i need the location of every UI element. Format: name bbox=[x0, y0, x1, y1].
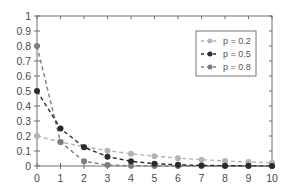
y-tick-label: 0.1 bbox=[16, 145, 31, 157]
data-point-marker bbox=[246, 163, 252, 169]
data-point-marker bbox=[58, 126, 64, 132]
chart: 00.10.20.30.40.50.60.70.80.91 0123456789… bbox=[0, 0, 289, 193]
legend-label: p = 0.5 bbox=[223, 49, 251, 59]
legend: p = 0.2p = 0.5p = 0.8 bbox=[196, 31, 256, 76]
x-tick-label: 10 bbox=[266, 172, 278, 184]
x-tick-label: 9 bbox=[246, 172, 252, 184]
legend-marker-icon bbox=[208, 65, 213, 70]
data-point-marker bbox=[199, 162, 205, 168]
y-tick-label: 0.9 bbox=[16, 25, 31, 37]
x-tick-label: 0 bbox=[34, 172, 40, 184]
data-point-marker bbox=[58, 139, 64, 145]
x-tick-label: 3 bbox=[105, 172, 111, 184]
data-point-marker bbox=[105, 162, 111, 168]
data-point-marker bbox=[34, 133, 40, 139]
x-tick-label: 7 bbox=[199, 172, 205, 184]
data-point-marker bbox=[152, 153, 158, 159]
data-point-marker bbox=[199, 157, 205, 163]
x-tick-label: 1 bbox=[58, 172, 64, 184]
data-point-marker bbox=[128, 158, 134, 164]
y-tick-label: 0.8 bbox=[16, 40, 31, 52]
y-tick-label: 0.6 bbox=[16, 70, 31, 82]
x-tick-label: 4 bbox=[128, 172, 134, 184]
data-point-marker bbox=[175, 162, 181, 168]
data-point-marker bbox=[105, 154, 111, 160]
x-tick-label: 8 bbox=[222, 172, 228, 184]
data-point-marker bbox=[34, 43, 40, 49]
data-point-marker bbox=[105, 148, 111, 154]
y-tick-label: 0.7 bbox=[16, 55, 31, 67]
x-tick-label: 6 bbox=[175, 172, 181, 184]
data-point-marker bbox=[222, 163, 228, 169]
x-tick-label: 5 bbox=[152, 172, 158, 184]
y-tick-label: 0.3 bbox=[16, 115, 31, 127]
y-tick-label: 1 bbox=[25, 10, 31, 22]
data-point-marker bbox=[152, 161, 158, 167]
data-point-marker bbox=[34, 88, 40, 94]
data-point-marker bbox=[81, 144, 87, 150]
data-point-marker bbox=[269, 163, 275, 169]
y-tick-label: 0.5 bbox=[16, 85, 31, 97]
y-tick-label: 0.4 bbox=[16, 100, 31, 112]
legend-marker-icon bbox=[208, 39, 213, 44]
legend-marker-icon bbox=[208, 52, 213, 57]
data-point-marker bbox=[81, 158, 87, 164]
y-tick-label: 0 bbox=[25, 160, 31, 172]
legend-label: p = 0.2 bbox=[223, 36, 251, 46]
data-point-marker bbox=[175, 155, 181, 161]
x-tick-label: 2 bbox=[81, 172, 87, 184]
legend-label: p = 0.8 bbox=[223, 62, 251, 72]
y-tick-label: 0.2 bbox=[16, 130, 31, 142]
data-point-marker bbox=[128, 151, 134, 157]
